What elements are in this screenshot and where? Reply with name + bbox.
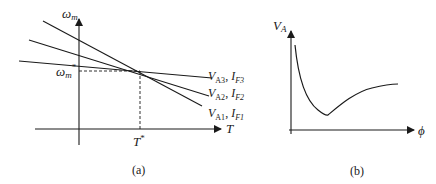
va-axis-label: VA (273, 18, 287, 34)
line-va1-if1 (43, 21, 202, 106)
panel-a: ωm T ωm* T* VA3, IF3 VA2, IF2 VA1, IF1 (… (19, 6, 244, 177)
label-va3-if3: VA3, IF3 (208, 69, 244, 85)
torque-star-label: T* (133, 133, 145, 149)
omega-axis-label: ωm (62, 6, 78, 22)
label-va1-if1: VA1, IF1 (208, 106, 244, 122)
va-vs-phi-curve (295, 45, 398, 115)
panel-b: VA ϕ (b) (273, 18, 425, 178)
diagram-canvas: ωm T ωm* T* VA3, IF3 VA2, IF2 VA1, IF1 (… (0, 0, 436, 184)
phi-axis-label: ϕ (418, 123, 425, 138)
line-va3-if3 (19, 61, 212, 78)
caption-b: (b) (350, 164, 364, 178)
torque-axis-label: T (226, 121, 234, 136)
label-va2-if2: VA2, IF2 (208, 86, 244, 102)
caption-a: (a) (132, 163, 145, 177)
